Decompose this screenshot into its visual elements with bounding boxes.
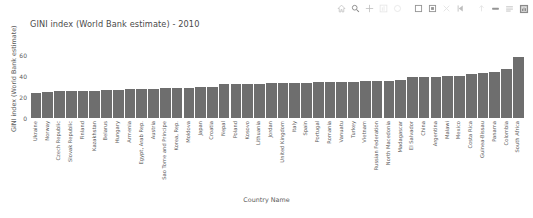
x-tick: Kosovo xyxy=(242,119,254,193)
x-tick: Turkey xyxy=(348,119,360,193)
x-tick-label: Mexico xyxy=(457,121,462,139)
bar xyxy=(101,90,112,118)
x-tick: Argentina xyxy=(430,119,442,193)
bar xyxy=(407,77,418,118)
chart-title: GINI index (World Bank estimate) - 2010 xyxy=(30,19,199,29)
x-tick: Spain xyxy=(301,119,313,193)
x-tick-label: Vanuatu xyxy=(339,121,344,142)
x-tick-label: Guinea-Bissau xyxy=(480,121,485,158)
bar xyxy=(454,76,465,118)
x-tick: Sao Tome and Principe xyxy=(159,119,171,193)
x-tick-label: Sao Tome and Principe xyxy=(163,121,168,180)
bar xyxy=(207,87,218,118)
y-axis-label: GINI index (World Bank estimate) xyxy=(10,32,18,132)
x-tick: Russian Federation xyxy=(371,119,383,193)
x-tick-label: Egypt, Arab Rep. xyxy=(139,121,144,165)
x-tick-label: Korea, Rep. xyxy=(174,121,179,151)
x-tick: United Kingdom xyxy=(277,119,289,193)
x-tick: Panama xyxy=(489,119,501,193)
x-axis-ticks: UkraineNorwayCzech RepublicSlovak Republ… xyxy=(30,119,524,193)
x-tick: Vietnam xyxy=(359,119,371,193)
x-tick: Mexico xyxy=(454,119,466,193)
x-tick: Madagascar xyxy=(395,119,407,193)
x-tick: South Africa xyxy=(512,119,524,193)
x-tick: Norway xyxy=(42,119,54,193)
x-tick: Armenia xyxy=(124,119,136,193)
x-tick: Austria xyxy=(148,119,160,193)
x-tick-label: Austria xyxy=(151,121,156,139)
x-tick: Jordan xyxy=(265,119,277,193)
x-tick-label: Vietnam xyxy=(363,121,368,143)
x-tick: Korea, Rep. xyxy=(171,119,183,193)
gini-bar-chart: GINI index (World Bank estimate) - 2010 … xyxy=(0,0,533,218)
x-tick: Ukraine xyxy=(30,119,42,193)
x-tick: Poland xyxy=(230,119,242,193)
y-tick-label: 0 xyxy=(23,115,27,122)
bar xyxy=(160,88,171,118)
bar xyxy=(372,81,383,118)
bar xyxy=(336,82,347,118)
bar xyxy=(184,88,195,118)
bar xyxy=(278,83,289,118)
bar xyxy=(419,77,430,118)
bar xyxy=(148,89,159,118)
y-tick-label: 40 xyxy=(19,72,27,79)
x-tick: Malawi xyxy=(442,119,454,193)
x-tick-label: Japan xyxy=(198,121,203,135)
x-tick-label: El Salvador xyxy=(410,121,415,150)
bar xyxy=(66,91,77,118)
bar xyxy=(301,83,312,118)
plot-area: 0204060 xyxy=(30,44,524,118)
x-tick-label: Poland xyxy=(233,121,238,138)
bar xyxy=(172,88,183,118)
x-tick: Vanuatu xyxy=(336,119,348,193)
x-tick-label: Slovak Republic xyxy=(69,121,74,162)
x-tick-label: Italy xyxy=(292,121,297,132)
bar xyxy=(489,72,500,119)
x-tick-label: Croatia xyxy=(210,121,215,140)
x-tick: Romania xyxy=(324,119,336,193)
bar xyxy=(501,69,512,118)
x-tick-label: Malawi xyxy=(445,121,450,139)
bar xyxy=(219,84,230,118)
x-tick-label: Finland xyxy=(80,121,85,140)
x-tick: Costa Rica xyxy=(465,119,477,193)
x-tick-label: Armenia xyxy=(127,121,132,143)
x-tick: Belarus xyxy=(101,119,113,193)
x-tick-label: Russian Federation xyxy=(374,121,379,170)
bar xyxy=(513,57,524,118)
x-tick-label: Turkey xyxy=(351,121,356,138)
x-tick: Moldova xyxy=(183,119,195,193)
bar-series xyxy=(30,44,524,118)
bar xyxy=(384,81,395,118)
x-tick-label: Kazakhstan xyxy=(92,121,97,151)
x-tick-label: Madagascar xyxy=(398,121,403,152)
x-tick-label: Ukraine xyxy=(33,121,38,141)
bar xyxy=(78,91,89,118)
x-tick: El Salvador xyxy=(407,119,419,193)
bar xyxy=(113,90,124,118)
x-tick-label: Jordan xyxy=(269,121,274,138)
x-tick-label: United Kingdom xyxy=(280,121,285,163)
bar xyxy=(431,77,442,118)
bar xyxy=(89,91,100,118)
x-tick-label: Norway xyxy=(45,121,50,141)
x-tick: Kazakhstan xyxy=(89,119,101,193)
x-tick-label: Costa Rica xyxy=(469,121,474,148)
x-tick: Slovak Republic xyxy=(65,119,77,193)
x-tick-label: Panama xyxy=(492,121,497,142)
x-tick: Colombia xyxy=(501,119,513,193)
x-tick-label: Lithuania xyxy=(257,121,262,145)
x-tick-label: Portugal xyxy=(316,121,321,142)
x-tick: Nepal xyxy=(218,119,230,193)
x-axis-label: Country Name xyxy=(0,196,533,204)
x-tick: Czech Republic xyxy=(54,119,66,193)
bar xyxy=(325,82,336,118)
bar xyxy=(289,83,300,118)
y-tick-label: 20 xyxy=(19,93,27,100)
bar xyxy=(231,84,242,118)
bar xyxy=(348,82,359,118)
x-tick: Italy xyxy=(289,119,301,193)
x-tick-label: Czech Republic xyxy=(57,121,62,161)
x-tick: Guinea-Bissau xyxy=(477,119,489,193)
